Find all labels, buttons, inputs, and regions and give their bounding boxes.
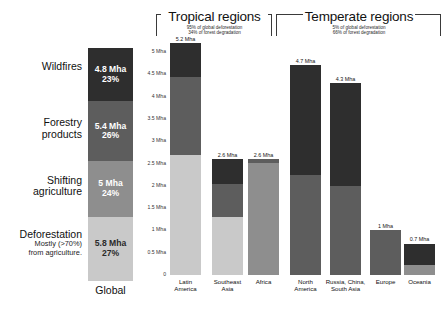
region-bar-segment-0-0-1 <box>170 77 201 155</box>
y-axis-tick-3: 3.5 Mha <box>136 116 166 121</box>
group-bracket-top-0-1 <box>277 14 303 16</box>
group-bracket-left-1 <box>276 14 278 36</box>
region-bar-segment-1-3-1 <box>404 265 435 275</box>
global-segment-0: 4.8 Mha23% <box>88 48 133 101</box>
group-subtitle-line2-1: 66% of forest degradation <box>277 30 441 35</box>
y-axis-tick-7: 1.5 Mha <box>136 205 166 210</box>
group-bracket-right-0 <box>271 14 273 36</box>
y-axis-tick-2: 4 Mha <box>136 94 166 99</box>
y-axis-tick-5: 2.5 Mha <box>136 161 166 166</box>
region-bar-total-0-2: 2.6 Mha <box>238 152 289 158</box>
region-bar-total-1-0: 4.7 Mha <box>280 58 331 64</box>
region-bar-total-1-2: 1 Mha <box>360 223 411 229</box>
global-segment-3: 5.8 Mha27% <box>88 217 133 281</box>
region-bar-segment-1-0-1 <box>290 175 321 275</box>
region-bar-segment-1-0-0 <box>290 65 321 174</box>
group-bracket-left-0 <box>156 14 158 36</box>
global-caption: Global <box>88 284 133 296</box>
global-row-label-2: Shiftingagriculture <box>0 175 82 198</box>
y-axis-tick-9: 0.5 Mha <box>136 250 166 255</box>
region-bar-caption-1-3: Oceania <box>390 279 446 286</box>
region-bar-segment-0-1-0 <box>212 159 243 184</box>
region-bar-1-3 <box>404 244 435 275</box>
region-bar-segment-0-0-2 <box>170 155 201 275</box>
group-header-0: Tropical regions95% of global deforestat… <box>157 10 272 36</box>
region-bar-0-1 <box>212 159 243 275</box>
y-axis-tick-0: 5 Mha <box>136 49 166 54</box>
global-row-label-3: DeforestationMostly (>70%)from agricultu… <box>0 229 82 258</box>
region-bar-segment-0-1-1 <box>212 184 243 217</box>
region-bar-total-1-3: 0.7 Mha <box>394 236 445 242</box>
global-row-label-1: Forestryproducts <box>0 117 82 140</box>
region-bar-0-0 <box>170 43 201 275</box>
region-bar-total-1-1: 4.3 Mha <box>320 76 371 82</box>
group-bracket-right-1 <box>440 14 442 36</box>
y-axis-tick-10: 0 <box>136 272 166 277</box>
forest-loss-drivers-chart: 4.8 Mha23%5.4 Mha26%5 Mha24%5.8 Mha27%Wi… <box>0 0 446 311</box>
global-segment-percent-1: 26% <box>102 131 119 141</box>
region-bar-1-1 <box>330 83 361 275</box>
region-bar-segment-1-1-1 <box>330 186 361 275</box>
region-bar-segment-1-3-0 <box>404 244 435 265</box>
global-segment-percent-0: 23% <box>102 75 119 85</box>
region-bar-segment-0-1-2 <box>212 217 243 275</box>
region-bar-segment-1-1-0 <box>330 83 361 186</box>
group-bracket-top-1-1 <box>415 14 441 16</box>
region-bar-segment-0-2-1 <box>248 163 279 275</box>
region-bar-total-0-0: 5.2 Mha <box>160 36 211 42</box>
global-segment-1: 5.4 Mha26% <box>88 101 133 161</box>
y-axis: 5 Mha4.5 Mha4 Mha3.5 Mha3 Mha2.5 Mha2 Mh… <box>136 0 166 311</box>
group-title-1: Temperate regions <box>277 10 441 24</box>
group-bracket-top-1-0 <box>268 14 272 16</box>
y-axis-tick-4: 3 Mha <box>136 138 166 143</box>
global-segment-2: 5 Mha24% <box>88 161 133 216</box>
y-axis-tick-6: 2 Mha <box>136 183 166 188</box>
y-axis-tick-8: 1 Mha <box>136 227 166 232</box>
global-row-label-0: Wildfires <box>0 61 82 73</box>
global-segment-percent-3: 27% <box>102 249 119 259</box>
group-bracket-top-0-0 <box>157 14 161 16</box>
global-segment-percent-2: 24% <box>102 189 119 199</box>
global-bar: 4.8 Mha23%5.4 Mha26%5 Mha24%5.8 Mha27% <box>88 48 133 281</box>
y-axis-tick-1: 4.5 Mha <box>136 71 166 76</box>
group-title-0: Tropical regions <box>157 10 272 24</box>
region-bar-1-0 <box>290 65 321 275</box>
region-bar-0-2 <box>248 159 279 275</box>
region-bar-segment-0-0-0 <box>170 43 201 76</box>
